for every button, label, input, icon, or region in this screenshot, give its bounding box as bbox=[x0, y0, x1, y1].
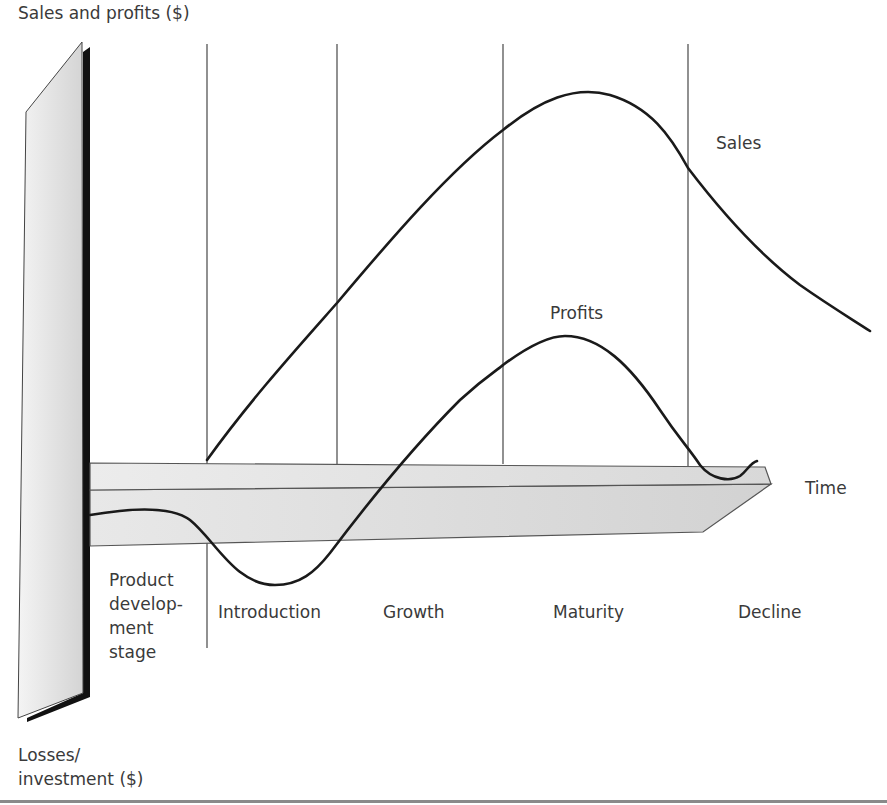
time-axis-slab bbox=[90, 463, 771, 546]
slab-front bbox=[90, 484, 771, 546]
sales-curve bbox=[207, 92, 870, 460]
sales-label: Sales bbox=[716, 132, 761, 154]
y-axis-panel bbox=[18, 42, 90, 722]
stage-label-decline: Decline bbox=[738, 601, 802, 623]
x-axis-time-label: Time bbox=[805, 477, 847, 499]
stage-label-growth: Growth bbox=[383, 601, 445, 623]
panel-face bbox=[18, 42, 83, 718]
profits-curve bbox=[90, 336, 757, 585]
y-axis-top-label: Sales and profits ($) bbox=[18, 2, 190, 24]
stage-label-introduction: Introduction bbox=[218, 601, 321, 623]
bottom-border-rule bbox=[0, 800, 887, 803]
stage-label-product-development: Product develop- ment stage bbox=[109, 568, 183, 664]
stage-dividers bbox=[207, 44, 688, 648]
product-life-cycle-diagram: Sales and profits ($) Sales Profits Time… bbox=[0, 0, 887, 805]
profits-label: Profits bbox=[550, 302, 603, 324]
stage-label-maturity: Maturity bbox=[553, 601, 624, 623]
y-axis-bottom-label: Losses/ investment ($) bbox=[18, 743, 143, 791]
